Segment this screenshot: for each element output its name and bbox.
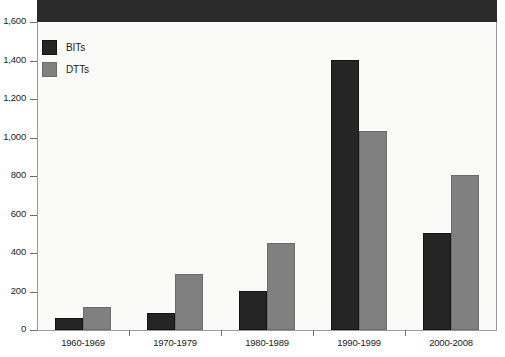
bar-bits-1990-1999 <box>331 60 359 330</box>
y-axis-tick-label: 0 <box>21 323 26 334</box>
legend-item-bits[interactable]: BITs <box>42 36 89 58</box>
top-dark-band <box>37 0 497 22</box>
y-axis-tick-label: 400 <box>11 246 26 257</box>
y-axis-tick-label: 1,400 <box>3 54 26 65</box>
y-axis-tick-mark <box>30 138 37 139</box>
bar-bits-1960-1969 <box>55 318 83 331</box>
y-axis-tick-label: 800 <box>11 169 26 180</box>
y-axis-tick-label: 600 <box>11 208 26 219</box>
bar-dtts-1960-1969 <box>83 307 111 330</box>
x-axis-category-label: 2000-2008 <box>405 337 497 348</box>
bar-bits-2000-2008 <box>423 233 451 330</box>
y-axis-tick-label: 200 <box>11 285 26 296</box>
bar-dtts-2000-2008 <box>451 175 479 330</box>
x-axis-tick-mark <box>129 330 130 336</box>
bar-bits-1980-1989 <box>239 291 267 330</box>
y-axis-tick-label: 1,000 <box>3 131 26 142</box>
bar-dtts-1990-1999 <box>359 131 387 330</box>
x-axis-tick-mark <box>221 330 222 336</box>
x-axis-category-label: 1960-1969 <box>37 337 129 348</box>
x-axis-category-label: 1990-1999 <box>313 337 405 348</box>
legend-swatch-bits-icon <box>42 40 57 55</box>
legend-label-bits: BITs <box>66 42 85 53</box>
y-axis-tick-mark <box>30 253 37 254</box>
bar-dtts-1980-1989 <box>267 243 295 330</box>
bar-bits-1970-1979 <box>147 313 175 330</box>
x-axis-category-label: 1970-1979 <box>129 337 221 348</box>
y-axis-tick-mark <box>30 292 37 293</box>
y-axis-tick-mark <box>30 215 37 216</box>
x-axis-tick-mark <box>313 330 314 336</box>
y-axis-tick-label: 1,600 <box>3 15 26 26</box>
x-axis-tick-mark <box>405 330 406 336</box>
y-axis-tick-mark <box>30 176 37 177</box>
y-axis-tick-mark <box>30 22 37 23</box>
y-axis-tick-label: 1,200 <box>3 92 26 103</box>
x-axis-category-label: 1980-1989 <box>221 337 313 348</box>
chart-legend: BITs DTTs <box>42 36 89 80</box>
bar-chart: 02004006008001,0001,2001,4001,600 1960-1… <box>0 0 505 357</box>
y-axis-tick-mark <box>30 99 37 100</box>
legend-swatch-dtts-icon <box>42 62 57 77</box>
bar-dtts-1970-1979 <box>175 274 203 330</box>
legend-label-dtts: DTTs <box>66 64 89 75</box>
y-axis-tick-mark <box>30 61 37 62</box>
legend-item-dtts[interactable]: DTTs <box>42 58 89 80</box>
y-axis-tick-mark <box>30 330 37 331</box>
